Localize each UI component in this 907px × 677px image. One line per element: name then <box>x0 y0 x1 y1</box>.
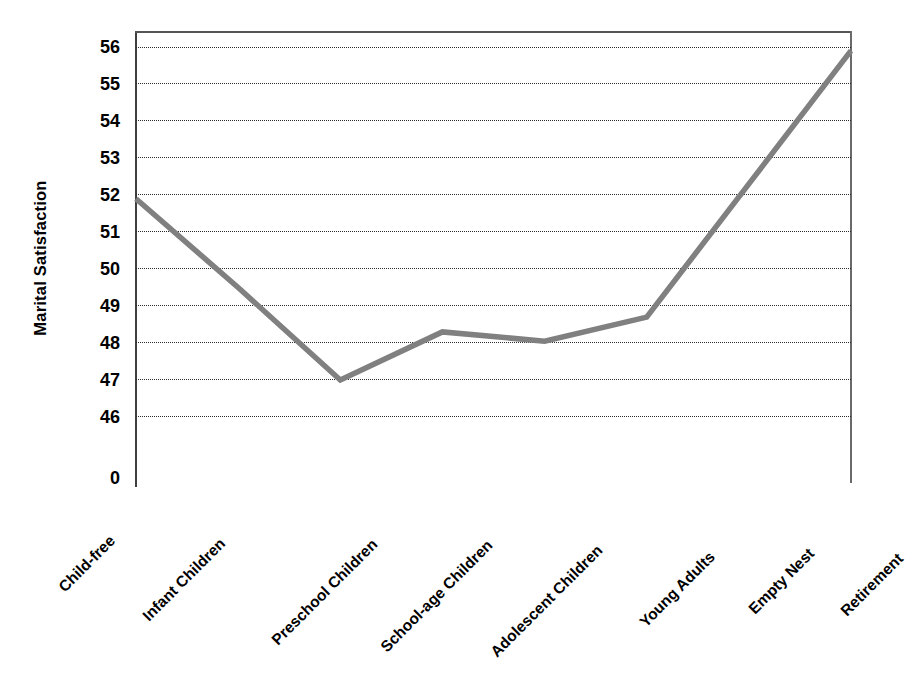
x-tick-label: Retirement <box>837 550 907 620</box>
gridline <box>136 231 851 232</box>
x-tick-label: Infant Children <box>139 535 229 625</box>
y-tick-label: 53 <box>0 148 120 169</box>
gridline <box>136 268 851 269</box>
y-tick-label: 48 <box>0 333 120 354</box>
y-tick-label: 49 <box>0 296 120 317</box>
y-tick-label: 46 <box>0 407 120 428</box>
y-tick-label: 55 <box>0 74 120 95</box>
gridline <box>136 379 851 380</box>
y-tick-label: 54 <box>0 111 120 132</box>
y-tick-label: 47 <box>0 370 120 391</box>
gridline <box>136 305 851 306</box>
gridline <box>136 194 851 195</box>
gridline <box>136 157 851 158</box>
gridline <box>136 83 851 84</box>
x-tick-label: Child-free <box>55 532 119 596</box>
gridline <box>136 120 851 121</box>
y-tick-label: 51 <box>0 222 120 243</box>
y-tick-label: 50 <box>0 259 120 280</box>
gridline <box>136 342 851 343</box>
x-tick-label: School-age Children <box>377 536 496 655</box>
y-tick-label: 56 <box>0 37 120 58</box>
gridline <box>136 416 851 417</box>
x-tick-label: Empty Nest <box>745 545 818 618</box>
x-tick-label: Young Adults <box>636 548 719 631</box>
gridline <box>136 47 851 48</box>
x-tick-label: Preschool Children <box>268 536 381 649</box>
plot-area <box>136 31 851 421</box>
y-tick-label: 52 <box>0 185 120 206</box>
y-tick-label-zero: 0 <box>0 468 120 489</box>
x-tick-label: Adolescent Children <box>487 541 606 660</box>
